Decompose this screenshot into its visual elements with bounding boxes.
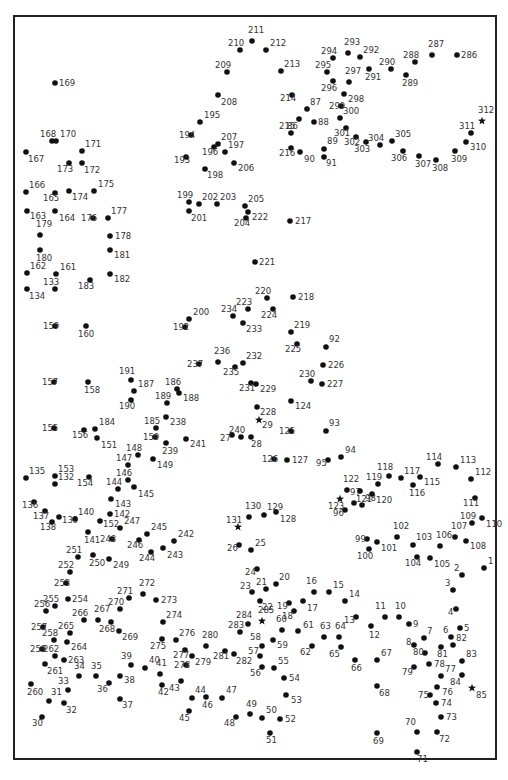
dot-number-label: 249 xyxy=(113,560,129,570)
dot-point-117: 117 xyxy=(398,466,420,481)
dot-point-157: 157 xyxy=(42,377,58,387)
dot-point-162: 162 xyxy=(24,261,46,276)
dot-number-label: 103 xyxy=(416,532,432,542)
dot-number-label: 206 xyxy=(238,163,254,173)
dot-number-label: 81 xyxy=(437,649,448,659)
dot-number-label: 164 xyxy=(59,213,75,223)
dot-marker xyxy=(37,247,43,253)
dot-point-113: 113 xyxy=(453,455,476,470)
dot-marker xyxy=(252,259,258,265)
dot-number-label: 155 xyxy=(42,423,58,433)
dot-number-label: 149 xyxy=(157,460,173,470)
dot-number-label: 236 xyxy=(214,346,230,356)
dot-number-label: 147 xyxy=(116,453,132,463)
dot-number-label: 75 xyxy=(418,690,429,700)
dot-point-112: 112 xyxy=(468,467,491,482)
dot-point-9: 9 xyxy=(406,619,418,629)
dot-number-label: 115 xyxy=(424,477,440,487)
dot-number-label: 17 xyxy=(307,603,318,613)
dot-point-137: 137 xyxy=(33,508,49,521)
dot-marker xyxy=(52,80,58,86)
dot-marker xyxy=(287,218,293,224)
dot-marker xyxy=(264,295,270,301)
dot-number-label: 215 xyxy=(279,121,295,131)
dot-number-label: 30 xyxy=(32,718,43,728)
dot-marker xyxy=(150,456,156,462)
dot-marker xyxy=(261,512,267,518)
dot-number-label: 10 xyxy=(395,601,406,611)
dot-marker xyxy=(308,378,314,384)
dot-number-label: 227 xyxy=(327,379,343,389)
dot-number-label: 21 xyxy=(256,577,267,587)
dot-point-309: 309 xyxy=(451,148,467,164)
dot-point-184: 184 xyxy=(92,417,115,432)
dot-point-39: 39 xyxy=(121,651,134,668)
dot-number-label: 237 xyxy=(187,359,203,369)
dot-marker xyxy=(468,476,474,482)
dot-marker xyxy=(186,316,192,322)
dot-point-87: 87 xyxy=(304,97,321,112)
dot-marker xyxy=(352,657,358,663)
dot-number-label: 261 xyxy=(47,666,63,676)
dot-number-label: 16 xyxy=(306,576,317,586)
dot-marker xyxy=(410,482,416,488)
dot-point-192: 192 xyxy=(173,322,189,332)
dot-number-label: 248 xyxy=(100,534,116,544)
dot-point-197: 197 xyxy=(222,140,244,155)
dot-number-label: 190 xyxy=(119,401,135,411)
dot-number-label: 195 xyxy=(204,110,220,120)
dot-number-label: 120 xyxy=(376,495,392,505)
dot-number-label: 110 xyxy=(486,519,502,529)
dot-point-64: 64 xyxy=(335,621,346,640)
dot-number-label: 157 xyxy=(42,377,58,387)
dot-point-138: 138 xyxy=(40,519,56,532)
dot-number-label: 245 xyxy=(151,522,167,532)
dot-number-label: 67 xyxy=(381,648,392,658)
dot-point-241: 241 xyxy=(183,436,206,449)
dot-point-72: 72 xyxy=(434,729,450,744)
dot-marker xyxy=(144,531,150,537)
dot-point-286: 286 xyxy=(454,50,477,60)
dot-number-label: 218 xyxy=(298,292,314,302)
dot-point-308: 308 xyxy=(432,157,448,173)
dot-point-189: 189 xyxy=(155,391,171,406)
dot-marker xyxy=(95,617,101,623)
dot-number-label: 31 xyxy=(51,687,62,697)
dot-number-label: 100 xyxy=(357,551,373,561)
dot-point-90: 90 xyxy=(297,149,315,164)
dot-number-label: 62 xyxy=(300,647,311,657)
dot-point-236: 236 xyxy=(214,346,230,365)
dot-point-4: 4 xyxy=(448,606,459,617)
dot-marker xyxy=(140,591,146,597)
dot-number-label: 1 xyxy=(488,556,493,566)
dot-point-269: 269 xyxy=(116,628,138,642)
dot-number-label: 11 xyxy=(375,601,386,611)
dot-point-262: 262 xyxy=(43,644,59,659)
dot-point-245: 245 xyxy=(144,522,167,537)
dot-point-275: 275 xyxy=(150,636,166,651)
dot-point-194: 194 xyxy=(179,130,195,140)
dot-marker xyxy=(224,69,230,75)
dot-marker xyxy=(277,716,283,722)
dot-point-256: 256 xyxy=(34,599,50,614)
dot-marker xyxy=(288,130,294,136)
dot-number-label: 209 xyxy=(215,60,231,70)
dot-number-label: 188 xyxy=(183,393,199,403)
dot-point-279: 279 xyxy=(189,653,211,667)
dot-point-126: 126 xyxy=(262,454,278,464)
dot-number-label: 84 xyxy=(450,677,461,687)
dot-number-label: 128 xyxy=(280,514,296,524)
dot-marker xyxy=(23,189,29,195)
dot-point-56: 56 xyxy=(250,664,265,678)
dot-point-46: 46 xyxy=(202,694,213,710)
dot-marker xyxy=(107,233,113,239)
dot-point-102: 102 xyxy=(393,521,409,540)
dot-number-label: 168 xyxy=(40,129,56,139)
dot-number-label: 158 xyxy=(84,385,100,395)
dot-marker xyxy=(53,138,59,144)
dot-point-141: 141 xyxy=(84,529,100,545)
dot-number-label: 63 xyxy=(320,621,331,631)
dot-number-label: 79 xyxy=(402,667,413,677)
dot-number-label: 268 xyxy=(99,624,115,634)
dot-point-2: 2 xyxy=(454,563,465,578)
